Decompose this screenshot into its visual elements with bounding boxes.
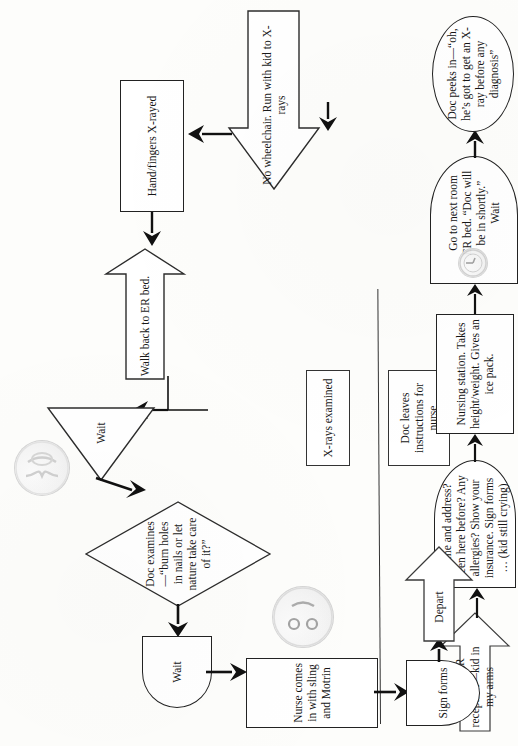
- node-wait-delay-label: Wait: [170, 658, 184, 685]
- node-wait-triangle-label: Wait: [95, 422, 107, 443]
- connector-6: [186, 122, 232, 146]
- box-doc-leaves-instructions-label: Doc leaves instructions for nurse: [398, 371, 440, 465]
- node-nursing-station: Nursing station. Takes height/weight. Gi…: [436, 314, 514, 434]
- node-wait-delay: Wait: [142, 636, 212, 708]
- connector-4: [464, 130, 486, 158]
- smiley-face-icon-glyph: [272, 586, 334, 648]
- box-xrays-examined: X-rays examined: [306, 370, 350, 466]
- connector-7: [140, 212, 164, 248]
- hourglass-icon-glyph: [14, 440, 70, 496]
- node-doc-examines-label: Doc examines—“burn holes in nails or let…: [143, 500, 213, 608]
- connector-12: [374, 680, 410, 704]
- node-sign-forms: Sign forms: [406, 660, 480, 726]
- node-depart-label: Depart: [432, 591, 446, 622]
- clock-icon-glyph: [458, 248, 488, 278]
- hourglass-icon: [14, 440, 70, 496]
- node-nurse-comes-in-label: Nurse comes in with sling and Motrin: [291, 659, 333, 727]
- node-nursing-station-label: Nursing station. Takes height/weight. Gi…: [454, 315, 496, 433]
- node-hand-fingers-xrayed-label: Hand/fingers X-rayed: [145, 93, 159, 200]
- flowchart-canvas: X-rays examined Doc leaves instructions …: [0, 0, 518, 746]
- node-walk-back-to-er-bed: Walk back to ER bed.: [104, 248, 186, 380]
- connector-2: [464, 434, 486, 462]
- node-no-wheelchair: No wheelchair. Run with kid to X-rays: [228, 10, 320, 190]
- node-walk-back-to-er-bed-label: Walk back to ER bed.: [138, 276, 152, 376]
- connector-3: [464, 284, 486, 314]
- node-doc-peeks-in-label: Doc peeks in—“oh, he’s got to get an X-r…: [445, 17, 501, 131]
- node-nurse-comes-in: Nurse comes in with sling and Motrin: [246, 658, 378, 728]
- connector-9: [92, 476, 148, 500]
- node-hand-fingers-xrayed: Hand/fingers X-rayed: [120, 80, 184, 212]
- connector-11: [206, 660, 248, 684]
- node-no-wheelchair-label: No wheelchair. Run with kid to X-rays: [260, 20, 289, 190]
- node-doc-examines: Doc examines—“burn holes in nails or let…: [84, 500, 272, 608]
- node-doc-peeks-in: Doc peeks in—“oh, he’s got to get an X-r…: [432, 16, 514, 132]
- node-sign-forms-label: Sign forms: [436, 665, 450, 722]
- node-depart: Depart: [404, 546, 474, 642]
- connector-10: [166, 604, 190, 638]
- clock-icon: [458, 248, 488, 278]
- box-xrays-examined-label: X-rays examined: [321, 376, 335, 461]
- smiley-face-icon: [272, 586, 334, 648]
